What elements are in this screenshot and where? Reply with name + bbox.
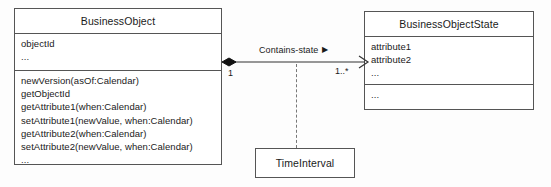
- operation-item: getAttribute1(when:Calendar): [21, 100, 215, 113]
- attribute-list-business-object-state: attribute1 attribute2 ...: [371, 40, 527, 80]
- association-label-contains-state: Contains-state▶: [259, 44, 329, 56]
- operation-compartment-business-object-state: ...: [365, 84, 533, 109]
- operation-compartment-business-object: newVersion(asOf:Calendar) getObjectId ge…: [15, 70, 221, 164]
- operation-list-business-object-state: ...: [371, 88, 527, 101]
- attribute-item: ...: [371, 66, 527, 79]
- operation-item: newVersion(asOf:Calendar): [21, 74, 215, 87]
- composition-diamond-icon: [222, 58, 236, 66]
- navigation-arrow-icon: ▶: [318, 45, 328, 54]
- attribute-item: attribute1: [371, 40, 527, 53]
- attribute-item: attribute2: [371, 53, 527, 66]
- operation-item: ...: [21, 153, 215, 166]
- operation-item: ...: [371, 88, 527, 101]
- multiplicity-source-label: 1: [228, 68, 233, 79]
- multiplicity-target-label: 1..*: [335, 66, 349, 77]
- class-box-business-object-state[interactable]: BusinessObjectState attribute1 attribute…: [364, 11, 534, 110]
- attribute-item: ...: [21, 50, 215, 63]
- uml-class-diagram: BusinessObject objectId ... newVersion(a…: [0, 0, 551, 187]
- operation-item: setAttribute1(newValue, when:Calendar): [21, 114, 215, 127]
- class-box-time-interval[interactable]: TimeInterval: [255, 148, 355, 178]
- operation-list-business-object: newVersion(asOf:Calendar) getObjectId ge…: [21, 74, 215, 166]
- dependency-line-time-interval: [296, 64, 297, 148]
- class-box-business-object[interactable]: BusinessObject objectId ... newVersion(a…: [14, 8, 222, 165]
- operation-item: getAttribute2(when:Calendar): [21, 127, 215, 140]
- class-name-time-interval: TimeInterval: [256, 149, 354, 177]
- attribute-list-business-object: objectId ...: [21, 37, 215, 63]
- attribute-compartment-business-object-state: attribute1 attribute2 ...: [365, 36, 533, 84]
- operation-item: setAttribute2(newValue, when:Calendar): [21, 140, 215, 153]
- class-name-business-object: BusinessObject: [15, 9, 221, 33]
- class-name-business-object-state: BusinessObjectState: [365, 12, 533, 36]
- attribute-item: objectId: [21, 37, 215, 50]
- association-label-text: Contains-state: [259, 45, 318, 55]
- attribute-compartment-business-object: objectId ...: [15, 33, 221, 70]
- operation-item: getObjectId: [21, 87, 215, 100]
